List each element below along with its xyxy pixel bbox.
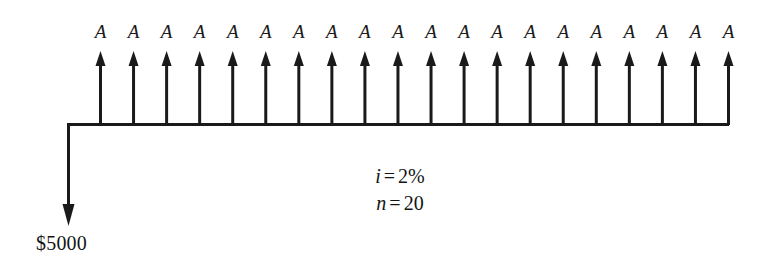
- annuity-arrow-up: [724, 51, 734, 125]
- annuity-label: A: [550, 22, 576, 41]
- annuity-label: A: [385, 22, 411, 41]
- annuity-arrow-up: [294, 51, 304, 125]
- annuity-arrow-up: [525, 51, 535, 125]
- principal-amount-label: $5000: [36, 232, 87, 255]
- annuity-label: A: [352, 22, 378, 41]
- annuity-label: A: [286, 22, 312, 41]
- annuity-label: A: [682, 22, 708, 41]
- periods-symbol: n: [376, 192, 386, 214]
- annuity-label: A: [583, 22, 609, 41]
- annuity-arrow-up: [624, 51, 634, 125]
- periods-value: 20: [404, 192, 424, 214]
- annuity-arrow-up: [558, 51, 568, 125]
- annuity-arrow-up: [327, 51, 337, 125]
- annuity-label: A: [187, 22, 213, 41]
- annuity-label: A: [649, 22, 675, 41]
- interest-value: 2%: [398, 165, 425, 187]
- annuity-arrow-up: [360, 51, 370, 125]
- interest-symbol: i: [375, 165, 381, 187]
- annuity-arrow-up: [492, 51, 502, 125]
- annuity-label: A: [88, 22, 114, 41]
- annuity-arrow-group: [96, 51, 734, 125]
- parameters-block: i=2% n=20: [330, 163, 470, 217]
- annuity-label: A: [253, 22, 279, 41]
- annuity-label: A: [517, 22, 543, 41]
- annuity-label: A: [121, 22, 147, 41]
- principal-arrow-down: [63, 123, 75, 226]
- annuity-label: A: [484, 22, 510, 41]
- annuity-arrow-up: [129, 51, 139, 125]
- annuity-arrow-up: [459, 51, 469, 125]
- annuity-label: A: [418, 22, 444, 41]
- annuity-arrow-up: [195, 51, 205, 125]
- cash-flow-diagram: AAAAAAAAAAAAAAAAAAAA i=2% n=20 $5000: [0, 0, 776, 262]
- interest-equals: =: [381, 165, 398, 187]
- annuity-label: A: [319, 22, 345, 41]
- annuity-arrow-up: [426, 51, 436, 125]
- annuity-arrow-up: [657, 51, 667, 125]
- annuity-label: A: [716, 22, 742, 41]
- annuity-label: A: [154, 22, 180, 41]
- annuity-arrow-up: [228, 51, 238, 125]
- annuity-arrow-up: [261, 51, 271, 125]
- periods-equals: =: [386, 192, 403, 214]
- annuity-arrow-up: [96, 51, 106, 125]
- parameter-line-interest: i=2%: [330, 163, 470, 190]
- annuity-arrow-up: [393, 51, 403, 125]
- annuity-arrow-up: [690, 51, 700, 125]
- annuity-label: A: [616, 22, 642, 41]
- annuity-arrow-up: [162, 51, 172, 125]
- annuity-arrow-up: [591, 51, 601, 125]
- annuity-label: A: [451, 22, 477, 41]
- parameter-line-periods: n=20: [330, 190, 470, 217]
- annuity-label: A: [220, 22, 246, 41]
